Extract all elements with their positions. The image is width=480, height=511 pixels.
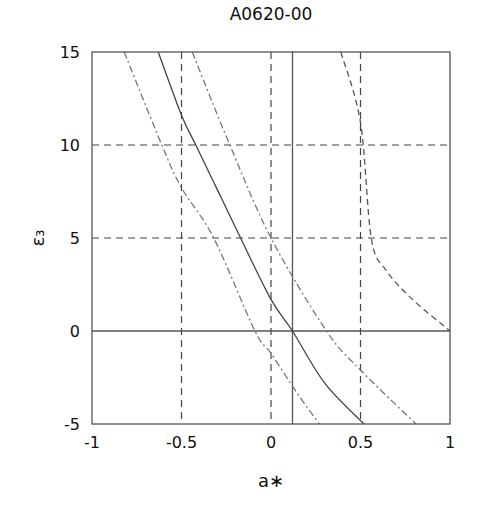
chart: A0620-00 -1-0.500.51-5051015 a∗ ε₃	[0, 0, 480, 511]
chart-title: A0620-00	[230, 4, 313, 24]
ticks: -1-0.500.51-5051015	[60, 43, 455, 452]
x-tick-label: -1	[84, 433, 100, 452]
y-tick-label: 15	[60, 43, 80, 62]
x-tick-label: 1	[445, 433, 455, 452]
y-tick-label: 0	[70, 322, 80, 341]
x-axis-label: a∗	[258, 470, 284, 491]
x-tick-label: 0.5	[348, 433, 373, 452]
x-tick-label: 0	[266, 433, 276, 452]
y-axis-label: ε₃	[27, 230, 48, 247]
y-tick-label: 5	[70, 229, 80, 248]
y-tick-label: -5	[64, 415, 80, 434]
y-tick-label: 10	[60, 136, 80, 155]
chart-canvas: A0620-00 -1-0.500.51-5051015 a∗ ε₃	[0, 0, 480, 511]
series-dashed	[341, 52, 450, 331]
x-tick-label: -0.5	[166, 433, 197, 452]
grid	[92, 52, 450, 424]
